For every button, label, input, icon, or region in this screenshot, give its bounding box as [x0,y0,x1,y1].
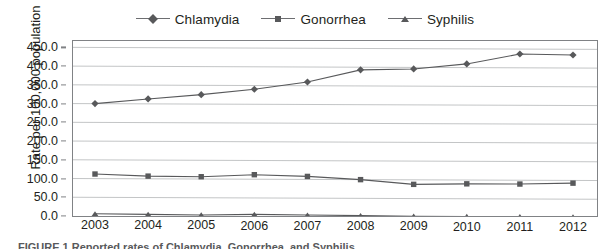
data-point-marker [145,173,150,178]
legend-label-syphilis: Syphilis [427,12,474,27]
data-point-marker [251,86,258,93]
data-point-marker [410,65,417,72]
x-tick-label: 2009 [400,220,428,233]
series-syphilis [91,211,576,216]
legend-marker-diamond-icon [136,13,170,25]
legend-marker-triangle-icon [388,13,422,25]
y-tick-label: 450.0 [0,41,58,54]
gridline [73,179,597,181]
y-tick-label: 300.0 [0,97,58,110]
y-tick-mark [61,141,66,142]
gridline [73,85,597,87]
y-tick-mark [61,103,66,104]
gridline [73,104,597,106]
y-tick-label: 250.0 [0,116,58,129]
legend-item-syphilis: Syphilis [388,12,474,27]
gridline [73,197,597,199]
data-point-marker [358,177,363,182]
y-tick-label: 350.0 [0,79,58,92]
data-point-marker [199,174,204,179]
x-tick-label: 2011 [506,221,533,234]
series-line [95,214,573,216]
legend-label-chlamydia: Chlamydia [175,12,240,27]
data-point-marker [464,181,469,186]
y-tick-mark [61,178,66,179]
y-tick-label: 0.0 [0,210,58,223]
x-tick-label: 2004 [134,219,162,232]
data-point-marker [304,78,311,85]
plot-area [72,40,598,217]
data-point-marker [463,60,470,67]
x-tick-label: 2008 [347,220,375,233]
y-tick-mark [61,47,66,48]
x-axis-tick-labels: 2003200420052006200720082009201020112012 [72,219,598,241]
y-tick-mark [61,197,66,198]
y-tick-mark [61,122,66,123]
y-tick-label: 100.0 [0,172,58,185]
data-point-marker [305,174,310,179]
data-point-marker [145,95,152,102]
x-tick-label: 2006 [240,220,268,233]
gridline [73,141,597,143]
data-point-marker [570,180,575,185]
x-tick-label: 2010 [453,221,481,234]
chart-figure: Chlamydia Gonorrhea Syphilis Rate per 10… [0,0,610,249]
y-tick-label: 150.0 [0,154,58,167]
y-tick-label: 50.0 [0,191,58,204]
gridline [73,160,597,162]
gridline [73,122,597,124]
data-point-marker [92,171,97,176]
series-line [95,54,573,104]
y-tick-label: 200.0 [0,135,58,148]
legend-label-gonorrhea: Gonorrhea [300,12,365,27]
x-tick-label: 2005 [187,219,215,232]
plot-svg [73,41,597,216]
y-tick-mark [61,159,66,160]
data-point-marker [91,100,98,107]
y-tick-mark [61,215,66,216]
y-tick-label: 400.0 [0,60,58,73]
x-tick-label: 2007 [293,220,321,233]
y-axis-tick-labels: 0.050.0100.0150.0200.0250.0300.0350.0400… [0,40,66,217]
y-tick-mark [61,66,66,67]
y-tick-mark [61,84,66,85]
data-point-marker [517,181,522,186]
x-tick-label: 2012 [559,221,587,234]
series-chlamydia [91,50,576,107]
data-point-marker [569,214,576,216]
data-point-marker [516,214,523,216]
data-point-marker [252,172,257,177]
series-lines [91,50,576,216]
data-point-marker [569,51,576,58]
legend-item-gonorrhea: Gonorrhea [261,12,365,27]
legend-marker-square-icon [261,13,295,25]
data-point-marker [198,91,205,98]
gridline [73,66,597,68]
chart-legend: Chlamydia Gonorrhea Syphilis [0,8,610,30]
data-point-marker [463,214,470,216]
figure-caption: FIGURE 1 Reported rates of Chlamydia, Go… [18,241,598,249]
data-point-marker [411,182,416,187]
x-tick-label: 2003 [81,219,109,232]
gridline [73,47,597,49]
data-point-marker [516,50,523,57]
legend-item-chlamydia: Chlamydia [136,12,240,27]
